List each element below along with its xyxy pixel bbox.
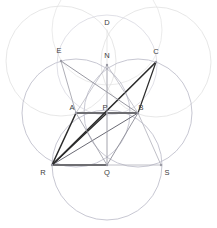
- geometry-figure: DENCAPBRQS: [0, 0, 217, 228]
- vertex-A[interactable]: [75, 112, 77, 114]
- vertex-P[interactable]: [106, 112, 108, 114]
- vertex-N[interactable]: [106, 64, 108, 66]
- vertex-Q[interactable]: [106, 164, 108, 166]
- point-label-A: A: [69, 103, 74, 112]
- point-label-S: S: [164, 168, 169, 177]
- seg-Q-A: [76, 113, 107, 165]
- vertex-E[interactable]: [60, 60, 62, 62]
- diagram-canvas: DENCAPBRQS: [0, 0, 217, 228]
- point-label-N: N: [104, 51, 109, 60]
- vertex-C[interactable]: [155, 61, 157, 63]
- point-label-B: B: [138, 103, 143, 112]
- seg-S-B: [138, 113, 161, 165]
- seg-R-C: [52, 62, 156, 165]
- point-label-Q: Q: [104, 168, 110, 177]
- vertex-B[interactable]: [137, 112, 139, 114]
- point-label-P: P: [102, 103, 107, 112]
- point-label-E: E: [56, 46, 61, 55]
- point-label-R: R: [40, 168, 46, 177]
- vertex-R[interactable]: [51, 164, 53, 166]
- point-label-C: C: [153, 47, 159, 56]
- point-label-D: D: [104, 18, 110, 27]
- vertex-S[interactable]: [160, 164, 162, 166]
- seg-R-B: [52, 113, 138, 165]
- seg-Q-B: [107, 113, 138, 165]
